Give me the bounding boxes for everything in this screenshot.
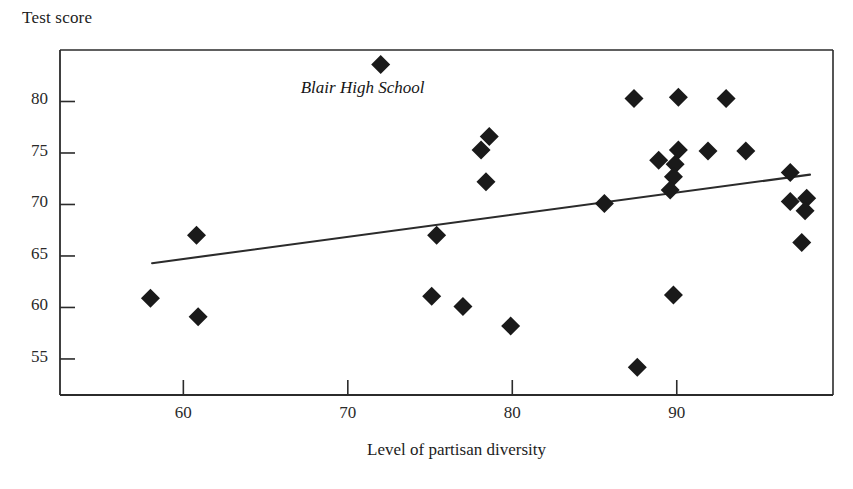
data-point-marker <box>595 194 614 213</box>
x-tick-label: 90 <box>654 403 700 423</box>
data-point-marker <box>661 181 680 200</box>
data-point-marker <box>628 358 647 377</box>
data-point-marker <box>187 226 206 245</box>
data-points-group <box>141 55 816 377</box>
data-point-marker <box>792 233 811 252</box>
data-point-marker <box>371 55 390 74</box>
x-axis-title: Level of partisan diversity <box>0 440 853 460</box>
trend-line <box>152 175 810 264</box>
annotation-blair-high-school: Blair High School <box>301 78 425 98</box>
plot-canvas <box>0 0 853 489</box>
x-axis-title-text: Level of partisan diversity <box>367 440 546 460</box>
data-point-marker <box>699 141 718 160</box>
data-point-marker <box>669 140 688 159</box>
data-point-marker <box>781 192 800 211</box>
data-point-marker <box>736 141 755 160</box>
data-point-marker <box>422 287 441 306</box>
y-tick-label: 60 <box>8 295 48 315</box>
y-tick-label: 70 <box>8 192 48 212</box>
scatter-plot-figure: Test score Blair High School Level of pa… <box>0 0 853 489</box>
data-point-marker <box>717 89 736 108</box>
data-point-marker <box>189 307 208 326</box>
x-tick-label: 60 <box>160 403 206 423</box>
x-tick-label: 70 <box>325 403 371 423</box>
x-tick-label: 80 <box>489 403 535 423</box>
y-tick-label: 75 <box>8 141 48 161</box>
data-point-marker <box>624 89 643 108</box>
data-point-marker <box>476 172 495 191</box>
data-point-marker <box>427 226 446 245</box>
data-point-marker <box>664 167 683 186</box>
y-tick-label: 55 <box>8 347 48 367</box>
data-point-marker <box>796 201 815 220</box>
y-tick-label: 80 <box>8 89 48 109</box>
data-point-marker <box>453 297 472 316</box>
data-point-marker <box>501 317 520 336</box>
data-point-marker <box>664 286 683 305</box>
y-axis-ticks <box>60 101 75 358</box>
data-point-marker <box>649 151 668 170</box>
data-point-marker <box>141 289 160 308</box>
data-point-marker <box>669 88 688 107</box>
y-tick-label: 65 <box>8 244 48 264</box>
x-axis-ticks <box>183 380 676 395</box>
